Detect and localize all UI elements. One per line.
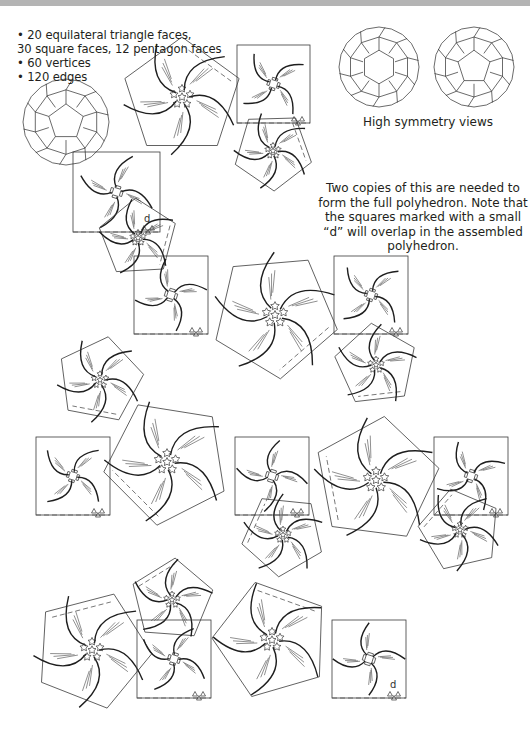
hatch-line xyxy=(363,496,372,517)
hatch-line xyxy=(178,638,185,649)
hatch-line xyxy=(257,660,267,679)
hatch-line xyxy=(368,633,369,646)
edge xyxy=(445,58,458,62)
edge xyxy=(456,81,464,92)
pentagon-star-marker-icon xyxy=(163,449,172,457)
pentagon-star-marker-icon xyxy=(266,318,275,326)
pentagon-outline xyxy=(125,37,239,146)
swirl-stroke xyxy=(244,522,278,539)
pentagon-outline xyxy=(318,417,439,537)
edge xyxy=(492,39,502,43)
hatch-line xyxy=(93,185,106,190)
swirl-stroke xyxy=(280,290,334,309)
pentagon-star-marker-icon xyxy=(163,458,172,466)
swirl-stroke xyxy=(348,370,375,395)
hatch-line xyxy=(110,202,115,215)
pentagon-outline xyxy=(61,337,143,420)
pentagon-star-marker-icon xyxy=(271,302,280,310)
swirl-stroke xyxy=(184,57,225,91)
edge xyxy=(77,137,85,148)
swirl-stroke xyxy=(383,482,419,525)
hatch-line xyxy=(147,590,160,597)
edge xyxy=(397,91,398,102)
hatch-line xyxy=(236,643,257,644)
hatch-line xyxy=(285,616,303,627)
edge xyxy=(47,96,55,107)
hatch-line xyxy=(179,608,187,621)
hatch-line xyxy=(103,622,119,636)
hatch-line xyxy=(370,436,371,459)
swirl-stroke xyxy=(47,480,71,501)
hatch-line xyxy=(125,464,148,465)
edge xyxy=(24,129,36,132)
edge xyxy=(395,72,408,76)
swirl-stroke xyxy=(213,637,265,652)
hatch-line xyxy=(466,508,476,519)
edge xyxy=(60,154,66,164)
pentagon-star-marker-icon xyxy=(372,476,381,484)
pentagon-star-marker-icon xyxy=(135,235,141,240)
edge xyxy=(47,137,55,148)
hatch-line xyxy=(444,511,453,523)
edge xyxy=(361,81,369,92)
swirl-stroke xyxy=(275,608,321,634)
edge xyxy=(379,27,385,37)
pentagon-star-marker-icon xyxy=(280,526,286,531)
hatch-line xyxy=(245,150,259,152)
swirl-stroke xyxy=(99,649,142,680)
hatch-line xyxy=(351,355,364,362)
swirl-stroke xyxy=(237,468,268,481)
hatch-line xyxy=(273,270,275,293)
pentagon-star-marker-icon xyxy=(463,525,469,530)
hatch-line xyxy=(431,535,446,537)
square-bar-marker-icon xyxy=(276,82,280,88)
hatch-line xyxy=(162,67,173,85)
swirl-stroke xyxy=(143,605,170,630)
hatch-line xyxy=(264,655,270,675)
pentagon-star-marker-icon xyxy=(363,473,372,481)
swirl-stroke xyxy=(79,657,99,707)
swirl-stroke xyxy=(171,104,190,155)
fold-line xyxy=(139,564,175,586)
pentagon-star-marker-icon xyxy=(457,521,463,526)
swirl-stroke xyxy=(261,252,275,308)
hatch-line xyxy=(181,436,200,448)
edge xyxy=(435,74,446,77)
hatch-line xyxy=(235,305,256,312)
pentagon-star-marker-icon xyxy=(93,653,101,661)
pentagon-outline xyxy=(133,558,213,636)
edge xyxy=(361,43,369,54)
pentagon-star-marker-icon xyxy=(173,100,181,108)
hatch-line xyxy=(122,460,144,463)
edge xyxy=(490,72,503,76)
square-outline xyxy=(334,256,408,334)
swirl-stroke xyxy=(189,95,233,125)
hatch-line xyxy=(444,508,452,521)
edge xyxy=(397,39,407,43)
hatch-line xyxy=(148,245,158,255)
triangle-marker-icon xyxy=(300,117,305,122)
pentagon-face-piece xyxy=(335,323,417,401)
triangle-marker-icon xyxy=(291,509,296,514)
fold-line xyxy=(248,504,265,543)
hatch-line xyxy=(125,251,133,263)
pentagon-star-marker-icon xyxy=(270,142,276,147)
swirl-stroke xyxy=(174,299,182,331)
swirl-stroke xyxy=(474,461,505,472)
edge xyxy=(503,58,514,61)
hatch-line xyxy=(392,459,412,469)
swirl-stroke xyxy=(361,623,369,655)
swirl-stroke xyxy=(288,537,308,568)
hatch-line xyxy=(383,373,391,385)
pentagon-star-marker-icon xyxy=(175,595,181,600)
square-outline xyxy=(237,45,310,123)
overlap-d-marker: d xyxy=(390,679,396,690)
hatch-line xyxy=(282,135,294,143)
swirl-stroke xyxy=(144,402,162,457)
triangle-marker-icon xyxy=(390,328,395,333)
hatch-line xyxy=(154,610,165,620)
triangle-marker-icon xyxy=(490,509,495,514)
square-face-piece xyxy=(134,256,208,336)
edge xyxy=(484,43,492,54)
square-bar-marker-icon xyxy=(270,469,276,473)
